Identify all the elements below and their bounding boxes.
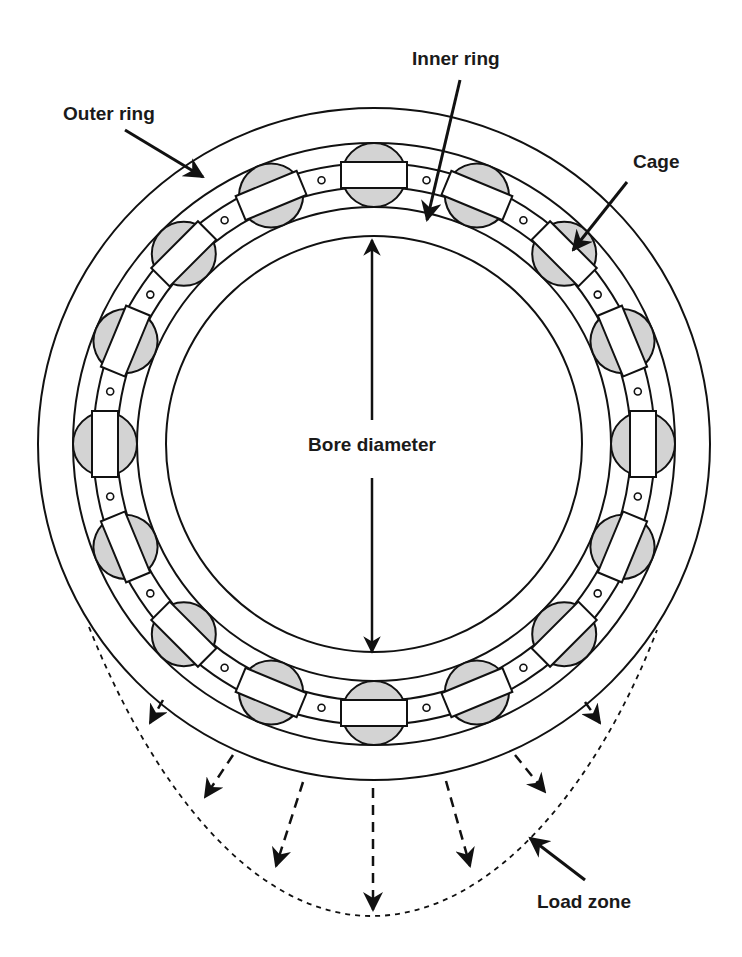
roller [73, 411, 137, 477]
roller [138, 208, 230, 300]
cage-rivet-hole [318, 177, 325, 184]
roller [341, 143, 407, 207]
cage-rivet-hole [107, 388, 114, 395]
roller [341, 681, 407, 745]
cage-pocket [630, 411, 656, 477]
roller [138, 588, 230, 680]
cage-rivet-hole [318, 704, 325, 711]
cage-rivet-hole [107, 493, 114, 500]
cage-rivet-hole [423, 704, 430, 711]
cage-rivet-hole [594, 590, 601, 597]
cage-pocket [92, 411, 118, 477]
cage-rivet-hole [520, 664, 527, 671]
outer-ring-label: Outer ring [63, 103, 155, 124]
cage-rivet-hole [147, 590, 154, 597]
cage-rivet-hole [520, 217, 527, 224]
load-arrow-1 [150, 700, 163, 723]
bore-diameter-label: Bore diameter [308, 434, 436, 455]
bearing-diagram: Bore diameter Outer ring Inner ring Cage… [0, 0, 742, 957]
cage-rivet-hole [423, 177, 430, 184]
cage-rivet-hole [634, 493, 641, 500]
cage-label: Cage [633, 151, 679, 172]
inner-ring-label: Inner ring [412, 48, 500, 69]
load-arrow-6 [515, 755, 545, 792]
load-arrow-5 [446, 781, 470, 866]
cage-rivet-hole [147, 291, 154, 298]
cage-rivet-hole [594, 291, 601, 298]
cage-rivet-hole [221, 217, 228, 224]
load-zone-label: Load zone [537, 891, 631, 912]
cage-rivet-hole [634, 388, 641, 395]
load-arrow-3 [276, 782, 303, 866]
load-arrow-7 [585, 702, 600, 723]
outer-ring-arrow [125, 130, 203, 177]
roller [518, 588, 610, 680]
cage-pocket [341, 162, 407, 188]
cage-rivet-hole [221, 664, 228, 671]
cage-pocket [341, 700, 407, 726]
load-arrow-2 [205, 755, 233, 797]
cage-arrow [573, 182, 627, 250]
roller [611, 411, 675, 477]
load-zone-arrow [530, 838, 585, 880]
